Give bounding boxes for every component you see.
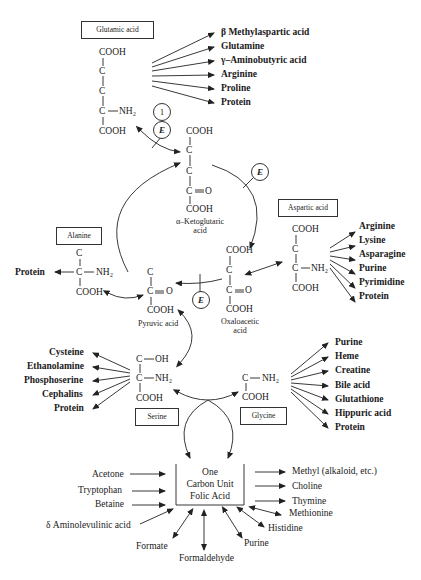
glycine-atom: C: [242, 373, 248, 384]
arrow: [152, 33, 214, 63]
oxalo-atom: O: [245, 285, 252, 296]
pyruvic-atom: C: [147, 267, 153, 278]
arrow: [152, 61, 214, 71]
glycine-product: Hippuric acid: [335, 408, 391, 419]
glutamic-atom: C: [99, 106, 105, 117]
one-carbon-input: Tryptophan: [78, 485, 122, 496]
one-carbon-title: Folic Acid: [176, 491, 244, 502]
alanine-atom: C: [76, 248, 82, 259]
glutamic-product: Glutamine: [221, 41, 264, 52]
glutamic-acid-label-box: Glutamic acid: [81, 21, 154, 39]
one-carbon-input: Betaine: [95, 499, 124, 510]
glycine-atom: COOH: [242, 392, 269, 403]
serine-label: Serine: [147, 412, 166, 421]
pyruvic-atom: C: [147, 286, 153, 297]
alanine-label-box: Alanine: [56, 227, 102, 245]
alanine-product: Protein: [15, 267, 45, 278]
glycine-atom: NH₂: [262, 373, 279, 384]
alanine-label: Alanine: [67, 231, 91, 240]
oxalo-atom: COOH: [226, 304, 253, 315]
arrow: [108, 293, 143, 298]
aspartic-atom: COOH: [292, 283, 319, 294]
enzyme-marker: E: [251, 163, 269, 181]
arrow: [250, 262, 282, 273]
one-carbon-exchange: Methionine: [289, 508, 333, 519]
keto-atom: COOH: [186, 126, 213, 137]
aspartic-acid-label-box: Aspartic acid: [278, 199, 338, 217]
arrow: [291, 383, 328, 386]
aspartic-product: Asparagine: [359, 249, 405, 260]
aspartic-atom: COOH: [292, 224, 319, 235]
aspartic-product: Arginine: [359, 221, 395, 232]
serine-atom: COOH: [136, 393, 163, 404]
arrow: [330, 246, 355, 252]
arrow: [225, 511, 242, 538]
one-carbon-exchange: Formate: [136, 541, 168, 552]
arrow: [93, 382, 130, 409]
aspartic-product: Pyrimidine: [359, 277, 404, 288]
one-carbon-output: Methyl (alkaloid, etc.): [292, 466, 377, 477]
pyruvic-atom: COOH: [147, 305, 174, 316]
oxalo-atom: COOH: [226, 245, 253, 256]
keto-atom: COOH: [186, 204, 213, 215]
ketoglutaric-name: acid: [160, 225, 240, 236]
arrow: [173, 513, 190, 538]
keto-atom: O: [205, 186, 212, 197]
arrow: [93, 379, 130, 395]
glutamic-product: γ–Aminobutyric acid: [221, 55, 306, 66]
serine-product: Protein: [54, 403, 84, 414]
arrow: [152, 81, 214, 89]
glutamic-product: Arginine: [221, 69, 257, 80]
arrow: [291, 343, 328, 374]
arrow: [208, 400, 233, 458]
glycine-product: Glutathione: [335, 394, 384, 405]
aspartic-product: Lysine: [359, 235, 385, 246]
arrow: [330, 256, 355, 260]
glycine-label: Glycine: [252, 411, 276, 420]
one-carbon-title: One: [176, 467, 244, 478]
glycine-product: Bile acid: [335, 380, 370, 391]
aspartic-atom: C: [292, 244, 298, 255]
one-carbon-title: Carbon Unit: [176, 479, 244, 490]
glutamic-product: β Methylaspartic acid: [221, 27, 309, 38]
oxalo-atom: C: [226, 265, 232, 276]
serine-product: Ethanolamine: [27, 361, 84, 372]
keto-atom: C: [186, 166, 192, 177]
arrow: [330, 232, 355, 248]
pyruvic-name: Pyruvic acid: [138, 318, 178, 329]
glutamic-product: Protein: [221, 97, 251, 108]
alanine-atom: COOH: [76, 287, 103, 298]
oxaloacetic-name: acid: [205, 325, 275, 336]
serine-product: Cysteine: [49, 347, 84, 358]
serine-atom: NH₂: [155, 373, 172, 384]
one-carbon-input: δ Aminolevulinic acid: [46, 520, 131, 531]
arrow: [178, 310, 192, 363]
arrow: [184, 400, 208, 458]
glycine-product: Protein: [335, 422, 365, 433]
serine-label-box: Serine: [135, 408, 179, 426]
one-carbon-input: Acetone: [92, 469, 124, 480]
enzyme-marker: E: [153, 121, 171, 139]
arrow: [140, 509, 173, 524]
serine-atom: C: [136, 373, 142, 384]
aspartic-atom: NH₂: [311, 263, 328, 274]
arrow: [176, 279, 222, 284]
glutamic-product: Proline: [221, 83, 250, 94]
alanine-atom: C: [76, 267, 82, 278]
aspartic-product: Protein: [359, 291, 389, 302]
glycine-product: Purine: [335, 337, 362, 348]
aspartic-acid-label: Aspartic acid: [288, 203, 328, 212]
alanine-atom: NH₂: [96, 267, 113, 278]
arrow: [152, 86, 214, 103]
step-number-marker: 1: [153, 103, 171, 121]
serine-product: Phosphoserine: [24, 375, 83, 386]
keto-atom: C: [186, 186, 192, 197]
arrow: [291, 357, 328, 377]
serine-product: Cephalins: [42, 389, 83, 400]
serine-atom: OH: [155, 354, 169, 365]
aspartic-atom: C: [292, 263, 298, 274]
arrow: [241, 510, 264, 527]
glutamic-atom: C: [99, 86, 105, 97]
one-carbon-exchange: Formaldehyde: [179, 553, 234, 564]
glutamic-atom: C: [99, 66, 105, 77]
